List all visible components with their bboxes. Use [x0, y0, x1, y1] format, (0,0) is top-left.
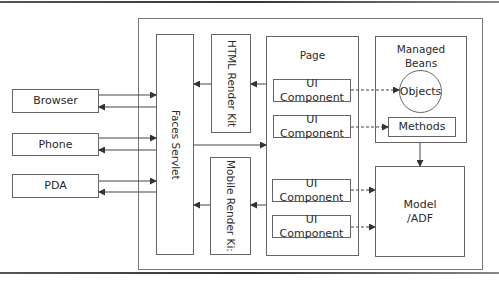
connector-layer	[0, 0, 499, 287]
